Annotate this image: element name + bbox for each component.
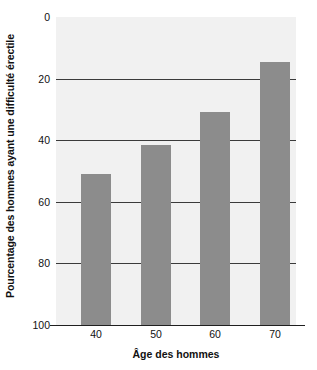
x-tick-label-40: 40 [90,328,102,340]
bar-age-40 [81,174,111,325]
y-tick-label-20: 20 [38,73,50,85]
x-axis-title: Âge des hommes [56,348,296,360]
y-axis-title: Pourcentage des hommes ayant une difficu… [0,0,20,332]
y-axis-tick-labels: 100 80 60 40 20 0 [20,0,54,340]
bar-chart-figure: Pourcentage des hommes ayant une difficu… [0,0,317,370]
bar-age-50 [141,145,171,325]
x-tick-label-70: 70 [269,328,281,340]
y-tick-label-60: 60 [38,196,50,208]
y-axis-title-text: Pourcentage des hommes ayant une difficu… [4,34,16,298]
y-tick-label-100: 100 [32,319,50,331]
x-axis-line [50,325,305,326]
x-axis-tick-labels: 40 50 60 70 [56,328,296,346]
x-tick-label-50: 50 [150,328,162,340]
y-tick-label-80: 80 [38,257,50,269]
bar-age-70 [260,62,290,325]
y-tick-label-0: 0 [44,11,50,23]
y-tick-label-40: 40 [38,134,50,146]
bar-age-60 [200,112,230,325]
x-tick-label-60: 60 [209,328,221,340]
plot-area [56,17,296,325]
